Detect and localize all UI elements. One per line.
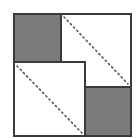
shaded-square-top-left (14, 14, 61, 62)
square-dissection-diagram (0, 0, 139, 138)
shaded-square-bottom-right (85, 87, 131, 136)
